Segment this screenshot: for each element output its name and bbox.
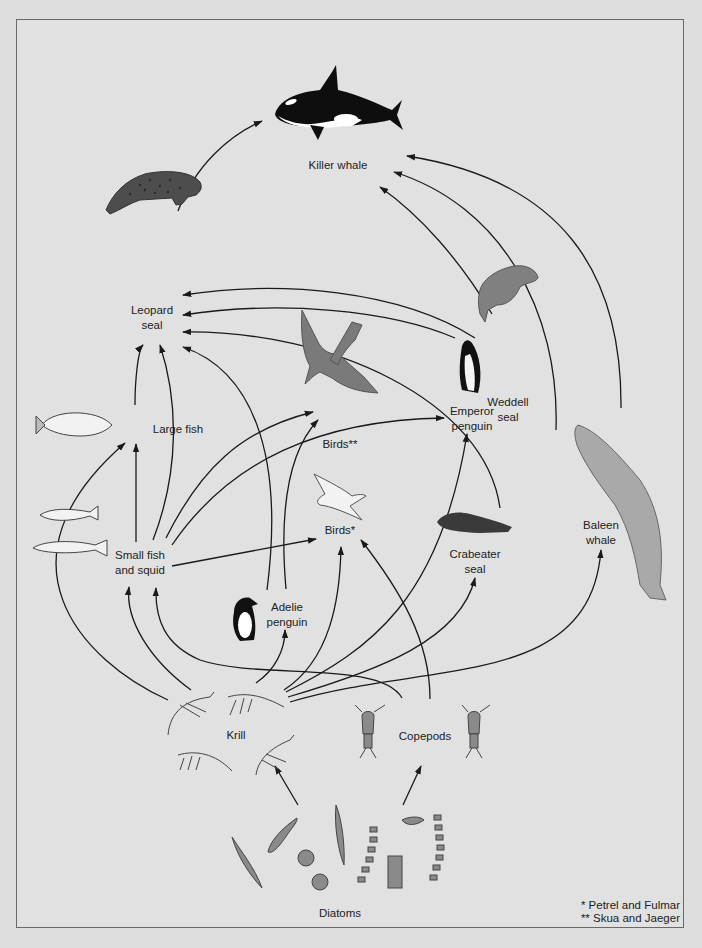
leopard-seal-icon	[106, 172, 201, 214]
label-birds-petrel: Birds*	[325, 523, 356, 538]
label-diatoms: Diatoms	[319, 906, 361, 921]
arrow-smallfish-to-emperor	[172, 418, 444, 545]
label-killer-whale: Killer whale	[309, 158, 368, 173]
baleen-whale-icon	[575, 425, 666, 600]
label-copepods: Copepods	[399, 729, 451, 744]
label-large-fish: Large fish	[153, 422, 204, 437]
label-crabeater-seal: Crabeater seal	[449, 547, 500, 577]
arrow-largefish-to-leopard	[135, 345, 143, 405]
emperor-penguin-icon	[460, 340, 481, 393]
weddell-seal-icon	[479, 266, 539, 322]
label-small-fish-squid: Small fish and squid	[115, 548, 165, 578]
adelie-penguin-icon	[233, 598, 258, 641]
label-adelie-penguin: Adelie penguin	[267, 600, 308, 630]
orca-icon	[275, 65, 403, 140]
arrow-adelie-to-leopard	[183, 347, 272, 590]
arrow-diatoms-to-krill	[275, 766, 298, 805]
arrow-leopard-to-killerwhale	[178, 121, 262, 211]
arrow-krill-to-smallfish	[129, 587, 191, 690]
diatom-icon	[232, 805, 444, 890]
footnote-skua: ** Skua and Jaeger	[581, 911, 680, 925]
label-leopard-seal: Leopard seal	[131, 303, 173, 333]
arrow-smallfish-to-leopard	[153, 345, 173, 540]
label-birds-skua: Birds**	[322, 437, 357, 452]
crabeater-seal-icon	[437, 512, 512, 532]
food-web-diagram	[0, 0, 702, 948]
petrel-bird-icon	[314, 474, 366, 520]
arrow-krill-to-emperor	[286, 434, 467, 692]
arrow-smallfish-to-birdspetrel	[172, 539, 316, 566]
arrow-krill-to-crabeater	[288, 578, 475, 697]
arrow-krill-to-adelie	[256, 630, 285, 683]
label-krill: Krill	[226, 728, 245, 743]
fish-icon	[36, 413, 112, 436]
arrow-weddell-to-killerwhale	[380, 187, 492, 314]
skua-bird-icon	[302, 310, 378, 393]
arrow-copepods-to-birdspetrel	[361, 540, 430, 699]
arrow-adelie-to-birdsskua	[284, 420, 318, 589]
arrow-weddell-to-leopard	[183, 289, 475, 338]
small-fish-icon	[33, 506, 107, 556]
label-baleen-whale: Baleen whale	[583, 518, 619, 548]
footnote-petrel: * Petrel and Fulmar	[581, 898, 680, 912]
arrow-diatoms-to-copepods	[403, 766, 421, 805]
arrows	[56, 121, 621, 805]
label-emperor-penguin: Emperor penguin	[450, 404, 494, 434]
